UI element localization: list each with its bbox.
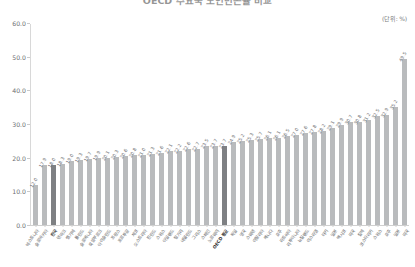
x-axis-category: 그리스 xyxy=(194,227,203,267)
x-axis-category-text: 미국 xyxy=(347,228,356,237)
bar-column[interactable]: 27.8 xyxy=(310,24,319,225)
bar[interactable]: 19.3 xyxy=(78,160,82,225)
bar-column[interactable]: 29.9 xyxy=(337,24,346,225)
bar-column[interactable]: 19.0 xyxy=(67,24,76,225)
bar[interactable]: 23.5 xyxy=(204,146,208,225)
bar-column[interactable]: 19.7 xyxy=(85,24,94,225)
bar-value-label: 22.6 xyxy=(182,141,191,152)
bar-column[interactable]: 27.0 xyxy=(292,24,301,225)
bar[interactable]: 22.7 xyxy=(195,149,199,225)
bar-column[interactable]: 26.1 xyxy=(265,24,274,225)
bar[interactable]: 22.6 xyxy=(186,149,190,225)
x-axis-category: 아이슬란드 xyxy=(103,227,112,267)
bar-column[interactable]: 26.5 xyxy=(283,24,292,225)
bar-column[interactable]: 23.7 xyxy=(211,24,220,225)
bar-column[interactable]: 21.6 xyxy=(157,24,166,225)
bar-column[interactable]: 49.5 xyxy=(400,24,409,225)
bar[interactable]: 22.1 xyxy=(168,151,172,225)
x-axis-category-text: 미국 xyxy=(401,228,410,237)
bar-column[interactable]: 22.1 xyxy=(166,24,175,225)
x-axis-category: 헝가리 xyxy=(176,227,185,267)
bar[interactable]: 35.2 xyxy=(393,107,397,225)
bar-column[interactable]: 17.9 xyxy=(40,24,49,225)
bar-column[interactable]: 31.2 xyxy=(364,24,373,225)
bar-column[interactable]: 30.7 xyxy=(346,24,355,225)
bar[interactable]: 26.1 xyxy=(267,138,271,225)
bar-column[interactable]: 20.8 xyxy=(130,24,139,225)
bar-column[interactable]: 18.0 xyxy=(49,24,58,225)
bar-column[interactable]: 32.9 xyxy=(382,24,391,225)
x-axis-category-text: 벨기에 xyxy=(65,228,76,241)
bar-column[interactable]: 22.2 xyxy=(175,24,184,225)
bar[interactable]: 23.7 xyxy=(213,146,217,225)
bar[interactable]: 23.7 xyxy=(222,146,226,225)
bar[interactable]: 32.9 xyxy=(384,115,388,225)
bar-column[interactable]: 20.3 xyxy=(112,24,121,225)
bar-column[interactable]: 19.3 xyxy=(76,24,85,225)
bar-column[interactable]: 26.1 xyxy=(274,24,283,225)
bar-column[interactable]: 23.7 xyxy=(220,24,229,225)
bar[interactable]: 21.3 xyxy=(150,154,154,225)
bar-column[interactable]: 35.2 xyxy=(391,24,400,225)
bar-column[interactable]: 28.2 xyxy=(319,24,328,225)
bar[interactable]: 19.9 xyxy=(96,158,100,225)
bar[interactable]: 25.2 xyxy=(240,141,244,225)
bar[interactable]: 19.7 xyxy=(87,159,91,225)
bar[interactable]: 20.6 xyxy=(123,156,127,225)
bar[interactable]: 20.3 xyxy=(114,157,118,225)
y-axis-tick: 10.0 xyxy=(0,189,26,195)
bar-column[interactable]: 27.6 xyxy=(301,24,310,225)
bar-value-label: 23.7 xyxy=(209,138,218,149)
x-axis-category: 슬로베니아 xyxy=(85,227,94,267)
bar[interactable]: 12.0 xyxy=(33,185,37,225)
bar-column[interactable]: 18.3 xyxy=(58,24,67,225)
bar[interactable]: 24.9 xyxy=(231,142,235,225)
bar[interactable]: 30.8 xyxy=(357,122,361,225)
bar[interactable]: 31.2 xyxy=(366,120,370,225)
bar-column[interactable]: 25.2 xyxy=(238,24,247,225)
bar-column[interactable]: 32.5 xyxy=(373,24,382,225)
bar-column[interactable]: 12.0 xyxy=(31,24,40,225)
bar[interactable]: 26.1 xyxy=(276,138,280,225)
bar[interactable]: 28.2 xyxy=(321,131,325,225)
bar-column[interactable]: 20.6 xyxy=(121,24,130,225)
bar[interactable]: 27.6 xyxy=(303,133,307,225)
bar[interactable]: 25.3 xyxy=(249,140,253,225)
bar[interactable]: 19.0 xyxy=(69,161,73,225)
bar[interactable]: 21.6 xyxy=(159,153,163,225)
bar[interactable]: 18.0 xyxy=(51,165,55,225)
bar[interactable]: 20.8 xyxy=(132,155,136,225)
bar-column[interactable]: 19.9 xyxy=(94,24,103,225)
bar[interactable]: 26.5 xyxy=(285,136,289,225)
bar-column[interactable]: 20.1 xyxy=(103,24,112,225)
bar-column[interactable]: 22.6 xyxy=(184,24,193,225)
x-axis-category: 멕시코 xyxy=(338,227,347,267)
bar-column[interactable]: 22.7 xyxy=(193,24,202,225)
bar[interactable]: 27.0 xyxy=(294,135,298,225)
bar-column[interactable]: 25.3 xyxy=(247,24,256,225)
bar[interactable]: 49.5 xyxy=(402,59,406,225)
x-axis-category: 이탈리아 xyxy=(257,227,266,267)
bar-column[interactable]: 23.5 xyxy=(202,24,211,225)
bar[interactable]: 32.5 xyxy=(375,116,379,225)
y-axis-tick: 50.0 xyxy=(0,55,26,61)
bar-column[interactable]: 21.0 xyxy=(139,24,148,225)
bar[interactable]: 25.7 xyxy=(258,139,262,225)
bar-value-label: 29.9 xyxy=(335,117,344,128)
bar[interactable]: 20.1 xyxy=(105,158,109,225)
x-axis-category: 칠레 xyxy=(356,227,365,267)
bar-column[interactable]: 25.7 xyxy=(256,24,265,225)
bar[interactable]: 30.7 xyxy=(348,122,352,225)
bar-column[interactable]: 24.9 xyxy=(229,24,238,225)
bar[interactable]: 17.9 xyxy=(42,165,46,225)
bar[interactable]: 29.9 xyxy=(339,125,343,225)
bar[interactable]: 21.0 xyxy=(141,155,145,225)
bar[interactable]: 29.1 xyxy=(330,128,334,225)
bar-value-label: 22.7 xyxy=(191,141,200,152)
bar[interactable]: 27.8 xyxy=(312,132,316,225)
bar[interactable]: 18.3 xyxy=(60,164,64,225)
plot-area: 0.010.020.030.040.050.060.0 12.017.918.0… xyxy=(30,24,409,226)
bar-column[interactable]: 30.8 xyxy=(355,24,364,225)
bar[interactable]: 22.2 xyxy=(177,151,181,225)
bar-column[interactable]: 21.3 xyxy=(148,24,157,225)
